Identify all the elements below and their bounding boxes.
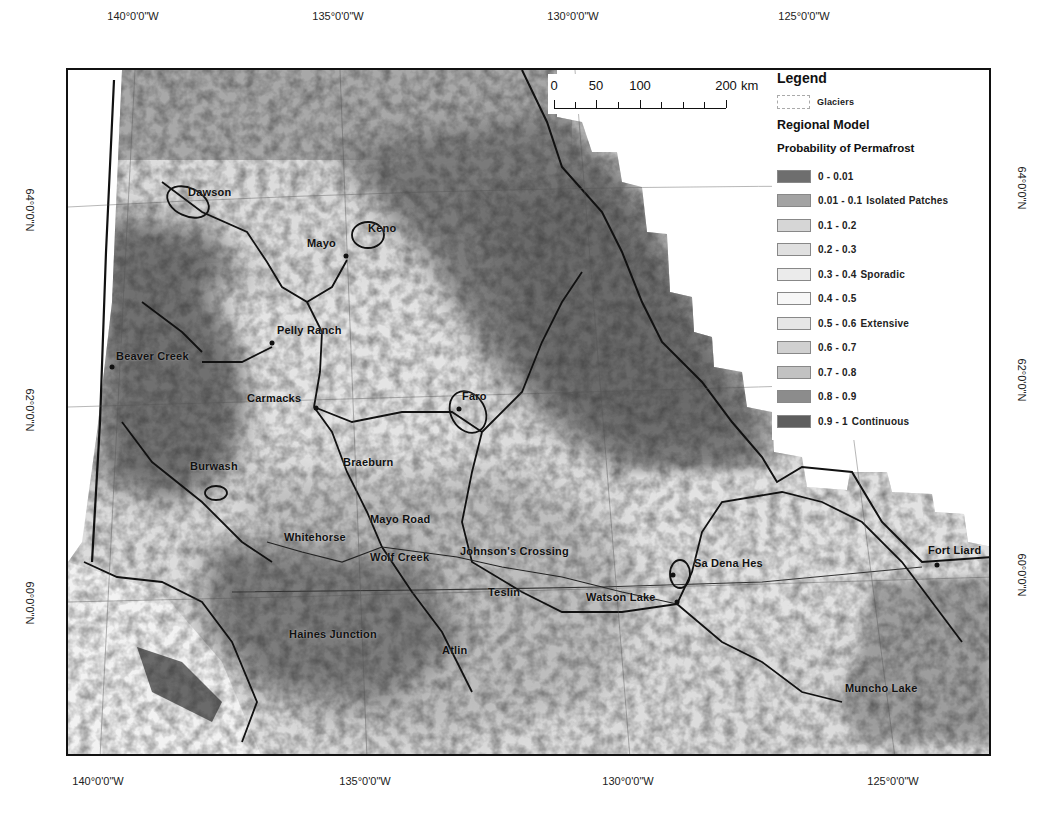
place-label: Dawson	[188, 186, 231, 198]
legend-swatch	[777, 366, 811, 379]
latitude-label: 62°0'0"N	[24, 389, 36, 432]
legend-item-class-0: 0 - 0.01	[777, 166, 858, 186]
place-label: Johnson's Crossing	[460, 545, 569, 557]
town-marker-icon	[675, 600, 680, 605]
legend-item-class-1: 0.01 - 0.1Isolated Patches	[777, 191, 948, 211]
legend-range-label: 0.2 - 0.3	[818, 244, 861, 255]
scale-tick	[640, 100, 641, 108]
legend-range-label: 0 - 0.01	[818, 171, 858, 182]
legend-range: 0.8 - 0.9	[818, 391, 857, 402]
legend-swatch	[777, 219, 811, 232]
legend-range-label: 0.3 - 0.4Sporadic	[818, 269, 905, 280]
town-marker-icon	[935, 563, 940, 568]
scale-tick-label: 50	[589, 78, 603, 93]
place-label: Sa Dena Hes	[694, 557, 763, 569]
place-label: Braeburn	[343, 456, 394, 468]
legend-swatch	[777, 292, 811, 305]
scale-bar-line	[554, 108, 726, 109]
latitude-label: 62°0'0"N	[1016, 359, 1028, 402]
place-label: Haines Junction	[289, 628, 377, 640]
longitude-label: 140°0'0"W	[72, 775, 123, 787]
legend-item-class-8: 0.7 - 0.8	[777, 362, 861, 382]
legend-zone: Sporadic	[861, 269, 905, 280]
legend-range-label: 0.01 - 0.1Isolated Patches	[818, 195, 948, 206]
place-label: Whitehorse	[284, 531, 346, 543]
latitude-label: 64°0'0"N	[24, 189, 36, 232]
legend-probability-title: Probability of Permafrost	[777, 142, 914, 154]
scale-tick	[704, 102, 705, 108]
legend-item-class-5: 0.4 - 0.5	[777, 289, 861, 309]
legend-swatch	[777, 268, 811, 281]
place-label: Atlin	[442, 644, 467, 656]
longitude-label: 125°0'0"W	[778, 10, 829, 22]
longitude-label: 130°0'0"W	[547, 10, 598, 22]
longitude-label: 125°0'0"W	[867, 775, 918, 787]
legend-range-label: 0.8 - 0.9	[818, 391, 861, 402]
town-marker-icon	[314, 406, 319, 411]
latitude-label: 64°0'0"N	[1016, 167, 1028, 210]
legend: Legend Glaciers Regional Model Probabili…	[772, 70, 989, 440]
scale-tick	[596, 100, 597, 108]
legend-item-class-4: 0.3 - 0.4Sporadic	[777, 264, 905, 284]
legend-item-glaciers: Glaciers	[777, 92, 854, 112]
place-label: Pelly Ranch	[277, 324, 342, 336]
town-marker-icon	[457, 407, 462, 412]
legend-range-label: 0.5 - 0.6Extensive	[818, 318, 909, 329]
legend-item-class-3: 0.2 - 0.3	[777, 240, 861, 260]
legend-zone: Continuous	[852, 416, 910, 427]
place-label: Beaver Creek	[116, 350, 189, 362]
place-label: Mayo Road	[370, 513, 430, 525]
scale-tick	[618, 102, 619, 108]
place-label: Burwash	[190, 460, 238, 472]
latitude-label: 60°0'0"N	[1016, 554, 1028, 597]
legend-model-title: Regional Model	[777, 118, 869, 132]
scale-tick-label: 100	[629, 78, 651, 93]
legend-range: 0.9 - 1	[818, 416, 848, 427]
legend-range-label: 0.6 - 0.7	[818, 342, 861, 353]
legend-range: 0.2 - 0.3	[818, 244, 857, 255]
legend-title: Legend	[777, 70, 827, 86]
town-marker-icon	[270, 341, 275, 346]
place-label: Watson Lake	[586, 591, 656, 603]
legend-zone: Isolated Patches	[866, 195, 948, 206]
legend-range-label: 0.7 - 0.8	[818, 367, 861, 378]
place-label: Mayo	[307, 237, 336, 249]
legend-range: 0.3 - 0.4	[818, 269, 857, 280]
legend-item-class-2: 0.1 - 0.2	[777, 215, 861, 235]
longitude-label: 140°0'0"W	[107, 10, 158, 22]
place-label: Fort Liard	[928, 544, 981, 556]
scale-tick	[661, 102, 662, 108]
place-label: Carmacks	[247, 392, 301, 404]
legend-item-class-6: 0.5 - 0.6Extensive	[777, 313, 909, 333]
longitude-label: 130°0'0"W	[602, 775, 653, 787]
legend-range: 0.4 - 0.5	[818, 293, 857, 304]
scale-tick-label: 200	[715, 78, 737, 93]
place-label: Wolf Creek	[370, 551, 429, 563]
town-marker-icon	[344, 254, 349, 259]
legend-swatch	[777, 194, 811, 207]
legend-range: 0.7 - 0.8	[818, 367, 857, 378]
legend-range: 0.01 - 0.1	[818, 195, 862, 206]
legend-range: 0.1 - 0.2	[818, 220, 857, 231]
scale-tick-label: 0	[550, 78, 557, 93]
legend-range: 0.5 - 0.6	[818, 318, 857, 329]
scale-tick	[554, 100, 555, 108]
town-marker-icon	[110, 365, 115, 370]
legend-swatch	[777, 341, 811, 354]
legend-range-label: 0.9 - 1Continuous	[818, 416, 909, 427]
scale-bar: 050100200 km	[548, 74, 773, 114]
place-label: Faro	[462, 390, 487, 402]
legend-range-label: 0.4 - 0.5	[818, 293, 861, 304]
town-marker-icon	[671, 573, 676, 578]
legend-range: 0.6 - 0.7	[818, 342, 857, 353]
legend-swatch	[777, 243, 811, 256]
place-label: Teslin	[488, 586, 520, 598]
glacier-swatch	[777, 95, 810, 109]
place-label: Muncho Lake	[845, 682, 918, 694]
latitude-label: 60°0'0"N	[24, 582, 36, 625]
legend-range-label: 0.1 - 0.2	[818, 220, 861, 231]
place-label: Keno	[368, 222, 396, 234]
legend-item-class-7: 0.6 - 0.7	[777, 338, 861, 358]
legend-swatch	[777, 317, 811, 330]
longitude-label: 135°0'0"W	[339, 775, 390, 787]
